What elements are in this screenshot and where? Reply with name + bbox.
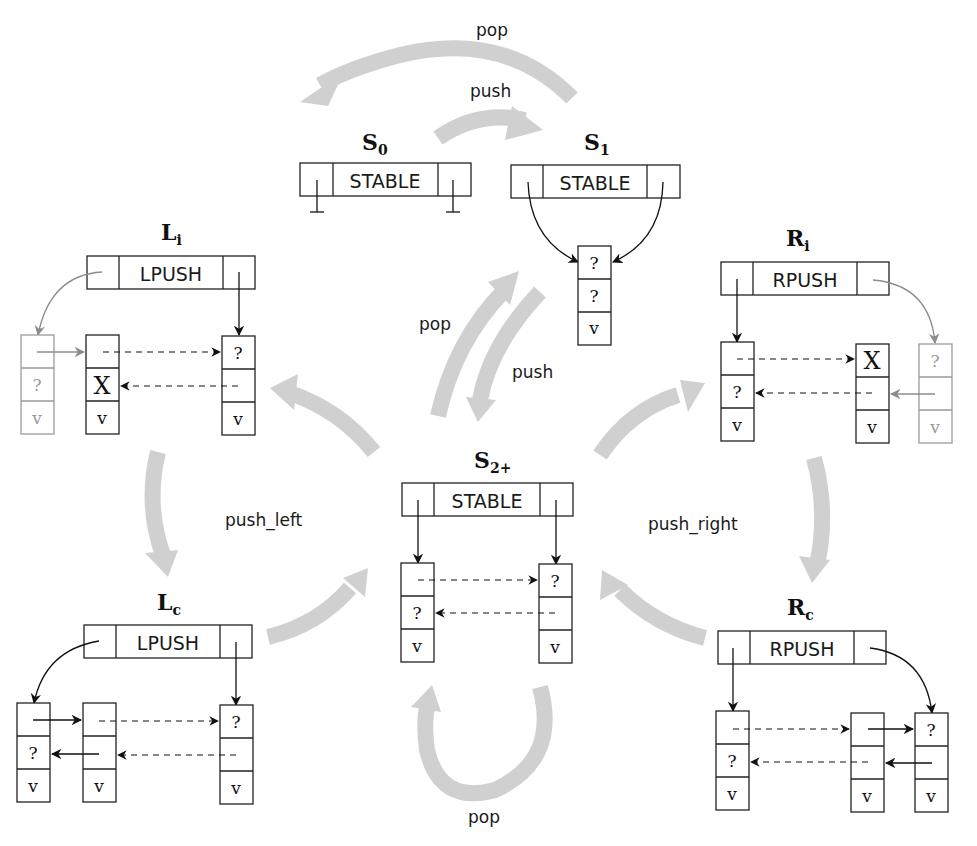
state-rc: Rc RPUSH ? v v ? v (716, 594, 948, 812)
s0-header-label: STABLE (350, 170, 421, 192)
svg-text:?: ? (589, 286, 598, 306)
svg-text:?: ? (926, 720, 935, 740)
svg-text:RPUSH: RPUSH (773, 269, 838, 291)
label-s0-to-s1: push (470, 81, 511, 101)
state-li: Li LPUSH ? v X v ? (21, 219, 255, 435)
svg-text:?: ? (28, 743, 37, 763)
s2-left-node: ? v (401, 563, 434, 662)
label-s1-to-s0: pop (476, 20, 508, 40)
state-lc-title: Lc (157, 589, 181, 618)
svg-text:v: v (96, 408, 107, 428)
svg-text:v: v (232, 409, 243, 429)
svg-text:v: v (31, 408, 42, 428)
svg-text:LPUSH: LPUSH (137, 632, 199, 654)
state-s2-title: S2+ (474, 447, 511, 476)
li-ghost-node: ? v (21, 335, 84, 434)
arrow-s2-to-ri (600, 380, 705, 455)
s1-node: ? ? v (578, 246, 611, 345)
svg-text:v: v (27, 776, 38, 796)
state-lc: Lc LPUSH ? v v ? v (17, 589, 253, 804)
label-push-right: push_right (648, 514, 738, 535)
ri-ghost-node: ? v (891, 344, 952, 443)
state-s2plus: S2+ STABLE ? v ? v (401, 447, 573, 663)
svg-text:LPUSH: LPUSH (140, 263, 202, 285)
svg-text:v: v (925, 786, 936, 806)
state-s0-title: S0 (362, 129, 388, 158)
svg-text:STABLE: STABLE (452, 490, 523, 512)
rc-left-node: ? v (716, 711, 749, 810)
svg-text:X: X (93, 372, 110, 400)
state-li-title: Li (161, 219, 182, 248)
arrow-lc-to-s2 (268, 568, 368, 637)
label-s2-self-pop: pop (468, 807, 500, 827)
s1-header-label: STABLE (560, 172, 631, 194)
svg-text:?: ? (732, 382, 741, 402)
label-s2-to-s1: pop (419, 314, 451, 334)
svg-text:?: ? (589, 253, 598, 273)
svg-text:RPUSH: RPUSH (770, 638, 835, 660)
state-ri-title: Ri (786, 225, 810, 254)
state-ri: Ri RPUSH ? v X v ? v (721, 225, 952, 443)
arrow-rc-to-s2 (600, 570, 705, 638)
svg-text:?: ? (32, 375, 41, 395)
arrow-s0-to-s1 (438, 106, 543, 140)
state-s1-title: S1 (584, 129, 610, 158)
svg-text:?: ? (231, 712, 240, 732)
svg-text:v: v (549, 637, 560, 657)
svg-text:?: ? (412, 603, 421, 623)
arrow-s2-self-pop (411, 685, 545, 793)
arrow-s2-to-li (270, 374, 374, 452)
lc-new-node: ? v (17, 703, 50, 802)
state-rc-title: Rc (787, 594, 814, 623)
svg-text:v: v (93, 776, 104, 796)
svg-text:?: ? (727, 751, 736, 771)
arrow-ri-to-rc (799, 458, 830, 583)
svg-text:v: v (230, 778, 241, 798)
state-s1: S1 STABLE ? ? v (511, 129, 680, 345)
arrow-s1-to-s0 (300, 48, 572, 106)
svg-text:?: ? (233, 343, 242, 363)
svg-text:X: X (863, 347, 880, 375)
state-diagram: pop push pop push push_left push_right p… (0, 0, 977, 846)
svg-text:v: v (866, 417, 877, 437)
ri-left-node: ? v (721, 342, 754, 441)
arrow-li-to-lc (145, 452, 178, 577)
svg-text:v: v (588, 318, 599, 338)
li-left-node: X v (86, 335, 119, 434)
svg-text:v: v (929, 417, 940, 437)
svg-text:?: ? (550, 571, 559, 591)
label-s1-to-s2: push (512, 362, 553, 382)
lc-left-node: v (83, 703, 116, 802)
svg-text:v: v (731, 415, 742, 435)
svg-text:v: v (726, 784, 737, 804)
svg-text:v: v (411, 636, 422, 656)
svg-text:v: v (861, 786, 872, 806)
svg-text:?: ? (930, 351, 939, 371)
label-push-left: push_left (225, 510, 303, 531)
